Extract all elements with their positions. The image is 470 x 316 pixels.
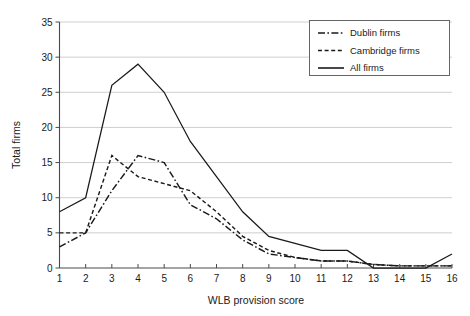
x-axis-title: WLB provision score <box>208 294 304 306</box>
x-tick-label: 9 <box>266 273 272 284</box>
x-tick-label: 5 <box>161 273 167 284</box>
x-tick-label: 6 <box>188 273 194 284</box>
chart-container: 05101520253035 12345678910111213141516 T… <box>0 0 470 316</box>
y-tick-label: 5 <box>47 227 53 238</box>
x-tick-label: 11 <box>316 273 327 284</box>
y-tick-label: 30 <box>41 52 53 63</box>
chart-legend: Dublin firmsCambridge firmsAll firms <box>310 21 450 76</box>
y-tick-label: 10 <box>41 192 53 203</box>
legend-label-all-firms: All firms <box>350 62 384 73</box>
x-tick-label: 16 <box>446 273 458 284</box>
x-tick-label: 10 <box>289 273 301 284</box>
legend-label-dublin-firms: Dublin firms <box>350 27 400 38</box>
legend-label-cambridge-firms: Cambridge firms <box>350 45 420 56</box>
y-tick-label: 0 <box>47 263 53 274</box>
x-tick-label: 2 <box>83 273 89 284</box>
y-tick-label: 20 <box>41 122 53 133</box>
x-tick-label: 15 <box>420 273 432 284</box>
x-tick-label: 12 <box>342 273 354 284</box>
x-tick-label: 8 <box>240 273 246 284</box>
y-axis-title: Total firms <box>10 121 22 169</box>
line-chart: 05101520253035 12345678910111213141516 T… <box>0 0 470 316</box>
x-tick-label: 13 <box>368 273 380 284</box>
x-tick-label: 4 <box>135 273 141 284</box>
y-tick-label: 15 <box>41 157 53 168</box>
x-tick-label: 7 <box>214 273 220 284</box>
x-tick-label: 3 <box>109 273 115 284</box>
x-tick-label: 14 <box>394 273 406 284</box>
x-tick-label: 1 <box>57 273 63 284</box>
y-tick-label: 35 <box>41 17 53 28</box>
y-tick-label: 25 <box>41 87 53 98</box>
